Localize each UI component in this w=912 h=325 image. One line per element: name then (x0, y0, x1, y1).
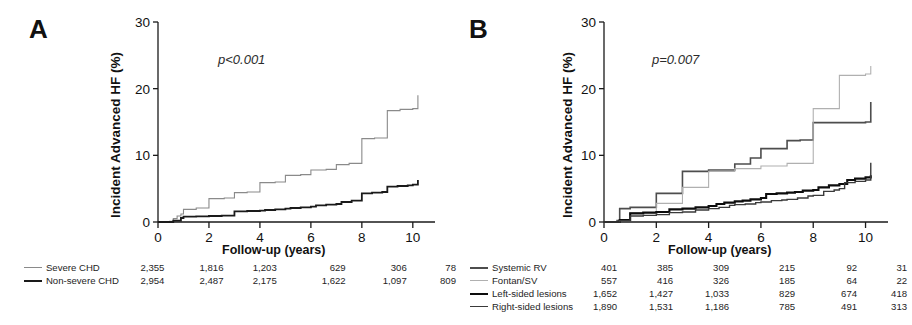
legend-line-swatch (470, 261, 492, 274)
svg-text:2: 2 (205, 230, 213, 245)
legend-label: Fontan/SV (492, 274, 573, 287)
risk-count-cell: 385 (617, 261, 673, 274)
risk-count-cell: 1,531 (617, 300, 673, 313)
legend-line-swatch (24, 274, 46, 287)
risk-count-cell: 491 (795, 300, 857, 313)
panel-b-plot-area: 01020300246810 (456, 0, 912, 260)
svg-text:10: 10 (405, 230, 420, 245)
risk-count-cell: 785 (729, 300, 795, 313)
risk-table-row: Left-sided lesions1,6521,4271,0338296744… (470, 287, 907, 300)
legend-line-swatch (24, 261, 46, 274)
risk-count-cell: 2,954 (119, 274, 164, 287)
svg-text:0: 0 (588, 215, 596, 230)
svg-text:8: 8 (358, 230, 366, 245)
svg-text:4: 4 (705, 230, 713, 245)
panel-a-chart-svg: 01020300246810 (0, 0, 456, 260)
risk-count-cell: 78 (407, 261, 456, 274)
risk-count-cell: 2,487 (164, 274, 223, 287)
risk-count-cell: 829 (729, 287, 795, 300)
svg-text:0: 0 (154, 230, 162, 245)
svg-text:10: 10 (135, 148, 150, 163)
svg-text:6: 6 (307, 230, 315, 245)
risk-count-cell: 313 (857, 300, 907, 313)
risk-count-cell: 416 (617, 274, 673, 287)
risk-count-cell: 1,816 (164, 261, 223, 274)
risk-count-cell: 309 (673, 261, 729, 274)
risk-count-cell: 326 (673, 274, 729, 287)
svg-text:2: 2 (653, 230, 661, 245)
risk-count-cell: 64 (795, 274, 857, 287)
risk-count-cell: 1,203 (224, 261, 277, 274)
svg-text:8: 8 (809, 230, 817, 245)
risk-count-cell: 22 (857, 274, 907, 287)
risk-count-cell: 557 (573, 274, 617, 287)
svg-text:0: 0 (142, 215, 150, 230)
svg-text:30: 30 (581, 15, 596, 30)
panel-a-plot-area: 01020300246810 (0, 0, 456, 260)
risk-count-cell: 2,355 (119, 261, 164, 274)
panel-b-numbers-at-risk-table: Systemic RV4013853092159231Fontan/SV5574… (470, 261, 907, 313)
svg-text:20: 20 (581, 82, 596, 97)
panel-b: B Incident Advanced HF (%) Follow-up (ye… (456, 0, 912, 325)
risk-count-cell: 1,652 (573, 287, 617, 300)
svg-text:20: 20 (135, 82, 150, 97)
legend-label: Left-sided lesions (492, 287, 573, 300)
risk-count-cell: 629 (277, 261, 346, 274)
legend-line-swatch (470, 287, 492, 300)
svg-text:10: 10 (581, 148, 596, 163)
risk-count-cell: 31 (857, 261, 907, 274)
risk-count-cell: 1,427 (617, 287, 673, 300)
risk-table-row: Severe CHD2,3551,8161,20362930678 (24, 261, 456, 274)
risk-count-cell: 674 (795, 287, 857, 300)
risk-count-cell: 1,890 (573, 300, 617, 313)
risk-count-cell: 1,097 (346, 274, 407, 287)
risk-table-row: Systemic RV4013853092159231 (470, 261, 907, 274)
curve-fontan-sv (604, 66, 871, 222)
panel-b-chart-svg: 01020300246810 (456, 0, 912, 260)
legend-label: Systemic RV (492, 261, 573, 274)
panel-a-numbers-at-risk-table: Severe CHD2,3551,8161,20362930678Non-sev… (24, 261, 456, 287)
panel-a: A Incident Advanced HF (%) Follow-up (ye… (0, 0, 456, 325)
risk-table-row: Right-sided lesions1,8901,5311,186785491… (470, 300, 907, 313)
figure-kaplan-meier-incident-advanced-hf: A Incident Advanced HF (%) Follow-up (ye… (0, 0, 912, 325)
curve-severe-chd (158, 95, 418, 222)
risk-table-row: Non-severe CHD2,9542,4872,1751,6221,0978… (24, 274, 456, 287)
risk-count-cell: 1,033 (673, 287, 729, 300)
risk-count-cell: 215 (729, 261, 795, 274)
legend-label: Severe CHD (46, 261, 119, 274)
risk-count-cell: 1,186 (673, 300, 729, 313)
legend-label: Non-severe CHD (46, 274, 119, 287)
legend-label: Right-sided lesions (492, 300, 573, 313)
legend-line-swatch (470, 300, 492, 313)
legend-line-swatch (470, 274, 492, 287)
risk-count-cell: 1,622 (277, 274, 346, 287)
risk-count-cell: 185 (729, 274, 795, 287)
svg-text:0: 0 (600, 230, 608, 245)
svg-text:6: 6 (757, 230, 765, 245)
risk-count-cell: 306 (346, 261, 407, 274)
risk-table-row: Fontan/SV5574163261856422 (470, 274, 907, 287)
risk-count-cell: 92 (795, 261, 857, 274)
risk-count-cell: 418 (857, 287, 907, 300)
risk-count-cell: 401 (573, 261, 617, 274)
risk-count-cell: 2,175 (224, 274, 277, 287)
curve-non-severe-chd (158, 180, 418, 222)
svg-text:30: 30 (135, 15, 150, 30)
svg-text:10: 10 (858, 230, 873, 245)
risk-count-cell: 809 (407, 274, 456, 287)
svg-text:4: 4 (256, 230, 264, 245)
